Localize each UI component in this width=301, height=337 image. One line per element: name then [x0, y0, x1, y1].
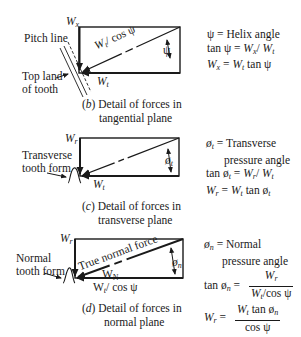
panel-d-caption-1: (d) Detail of forces in [82, 301, 182, 315]
wr-label-d: Wr [60, 232, 73, 248]
phi-t-label: øt [165, 154, 173, 170]
normal-tooth-label-1: Normal [16, 252, 51, 265]
top-land-label-2: of tooth [22, 83, 58, 96]
transverse-tooth-label-1: Transverse [22, 149, 72, 162]
panel-b-caption-1: (b) Detail of forces in [82, 97, 182, 111]
pitch-line-label: Pitch line [24, 32, 68, 45]
wt-cos-label: Wt/ cos ψ [93, 281, 138, 297]
helix-angle-def: ψ = Helix angle [207, 28, 280, 42]
normal-angle-def-2: pressure angle [204, 255, 293, 269]
wx-eq: Wx = Wt tan ψ [207, 58, 280, 75]
panel-c-caption-1: (c) Detail of forces in [82, 199, 181, 213]
panel-d-equations: øn = Normal pressure angle tan øn = Wr W… [204, 238, 293, 334]
psi-angle-label: ψ [163, 44, 170, 57]
panel-b-equations: ψ = Helix angle tan ψ = Wx/ Wt Wx = Wt t… [207, 28, 280, 75]
tan-phi-t-eq: tan øt = Wr/ Wt [206, 167, 290, 184]
wt-label-c: Wt [93, 178, 105, 194]
normal-angle-def: øn = Normal [204, 238, 293, 255]
panel-d-caption-2: normal plane [104, 315, 164, 329]
tan-psi-eq: tan ψ = Wx/ Wt [207, 42, 280, 59]
pitch-line-2 [64, 46, 87, 95]
panel-c-caption-2: transverse plane [98, 213, 172, 227]
wr-label-c: Wr [65, 132, 78, 148]
panel-b-caption-2: tangential plane [99, 111, 172, 125]
wr-eq-c: Wr = Wt tan øt [206, 184, 290, 201]
transverse-tooth-label-2: tooth form [22, 162, 71, 175]
wr-eq-d: Wr = Wt tan øn cos ψ [204, 303, 293, 334]
phi-n-label: øn [172, 256, 182, 272]
wt-label-b: Wt [97, 75, 109, 91]
panel-c-equations: øt = Transverse pressure angle tan øt = … [206, 137, 290, 200]
transverse-angle-def: øt = Transverse [206, 137, 290, 154]
tan-phi-n-eq: tan øn = Wr Wt/cos ψ [204, 269, 293, 303]
top-land-label-1: Top land [22, 70, 62, 83]
normal-tooth-label-2: tooth form [16, 265, 65, 278]
transverse-angle-def-2: pressure angle [206, 154, 290, 168]
wx-label: Wx [66, 15, 79, 31]
